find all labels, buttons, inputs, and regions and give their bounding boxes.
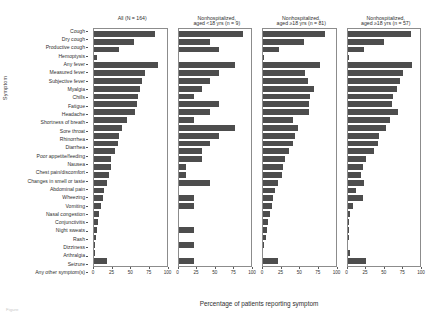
bar-row (263, 38, 336, 46)
x-axis-tick-label: 50 (381, 270, 386, 275)
chart-panel-nonhosp-18plus-81: Nonhospitalized, aged ≥18 yrs (n = 81)02… (259, 16, 344, 277)
bar-row (263, 241, 336, 249)
panel-row: All (N = 164)0255075100Nonhospitalized, … (90, 16, 428, 277)
bar (263, 242, 264, 248)
bar-row (348, 171, 421, 179)
x-axis: 0255075100 (178, 267, 253, 277)
bar-row (94, 46, 167, 54)
y-axis-tick-label: Sore throat (8, 127, 88, 135)
y-axis-tick-label: Dry cough (8, 35, 88, 43)
bar-row (348, 257, 421, 265)
x-axis-tick-label: 25 (109, 270, 114, 275)
bar-row (263, 132, 336, 140)
bar (348, 141, 378, 147)
bar (348, 164, 363, 170)
bar (348, 117, 390, 123)
bar (94, 250, 95, 256)
bar (94, 39, 134, 45)
bar (94, 227, 97, 233)
bar (263, 180, 278, 186)
bar-row (263, 249, 336, 257)
bar-row (263, 140, 336, 148)
plot-area (178, 28, 253, 267)
bar (179, 172, 187, 178)
bar-row (348, 179, 421, 187)
bar (348, 86, 397, 92)
bar-row (348, 194, 421, 202)
y-axis-tick-label: Productive cough (8, 44, 88, 52)
x-axis-tick-label: 100 (333, 270, 341, 275)
y-axis-tick-label: Poor appetite/feeding (8, 152, 88, 160)
bar (348, 55, 349, 61)
bar-row (179, 53, 252, 61)
bar-row (179, 234, 252, 242)
bar-row (179, 155, 252, 163)
bar (179, 141, 211, 147)
bar (263, 70, 305, 76)
bar-row (263, 234, 336, 242)
bar-row (348, 108, 421, 116)
bar (263, 203, 272, 209)
bar (348, 39, 385, 45)
bar (94, 125, 122, 131)
bar (348, 101, 392, 107)
bar-row (348, 38, 421, 46)
bar (263, 211, 270, 217)
bar-row (94, 234, 167, 242)
plot-area (262, 28, 337, 267)
bar (179, 109, 211, 115)
x-axis: 0255075100 (93, 267, 168, 277)
y-axis-tick-label: Dizziness (8, 244, 88, 252)
y-axis-tick-label: Nausea (8, 160, 88, 168)
bar-series (179, 29, 252, 266)
bar-row (348, 46, 421, 54)
bar-row (263, 210, 336, 218)
y-axis-tick-label: Shortness of breath (8, 119, 88, 127)
y-axis-tick-label: Night sweats (8, 227, 88, 235)
bar-row (263, 155, 336, 163)
bar-row (348, 140, 421, 148)
y-axis-tick-label: Cough (8, 27, 88, 35)
bar (94, 141, 118, 147)
plot-area (347, 28, 422, 267)
y-axis-tick-label: Rhinorrhea (8, 135, 88, 143)
bar-row (94, 147, 167, 155)
bar (179, 47, 220, 53)
y-axis-tick-labels: CoughDry coughProductive coughHemoptysis… (8, 27, 88, 277)
bar-row (179, 46, 252, 54)
bar (263, 55, 264, 61)
bar (94, 219, 98, 225)
bar-row (263, 194, 336, 202)
bar (179, 133, 220, 139)
x-axis-tick-label: 50 (212, 270, 217, 275)
bar (348, 109, 399, 115)
bar-row (179, 30, 252, 38)
bar (263, 133, 295, 139)
bar (94, 109, 135, 115)
bar (263, 47, 279, 53)
bar (263, 86, 314, 92)
bar (263, 195, 273, 201)
bar-row (348, 124, 421, 132)
bar (263, 125, 298, 131)
bar (348, 47, 365, 53)
bar (348, 133, 380, 139)
bar (179, 39, 211, 45)
y-axis-tick-label: Hemoptysis (8, 52, 88, 60)
bar-row (94, 108, 167, 116)
x-axis-tick-label: 0 (345, 270, 348, 275)
bar (94, 258, 107, 264)
bar-row (348, 147, 421, 155)
bar-row (94, 77, 167, 85)
bar (179, 101, 220, 107)
bar-row (179, 69, 252, 77)
bar-row (179, 187, 252, 195)
bar (348, 125, 386, 131)
bar-row (348, 241, 421, 249)
y-axis-tick-label: Vomiting (8, 202, 88, 210)
bar-row (179, 124, 252, 132)
bar-row (348, 61, 421, 69)
bar-row (94, 218, 167, 226)
bar (94, 164, 111, 170)
bar-row (179, 147, 252, 155)
